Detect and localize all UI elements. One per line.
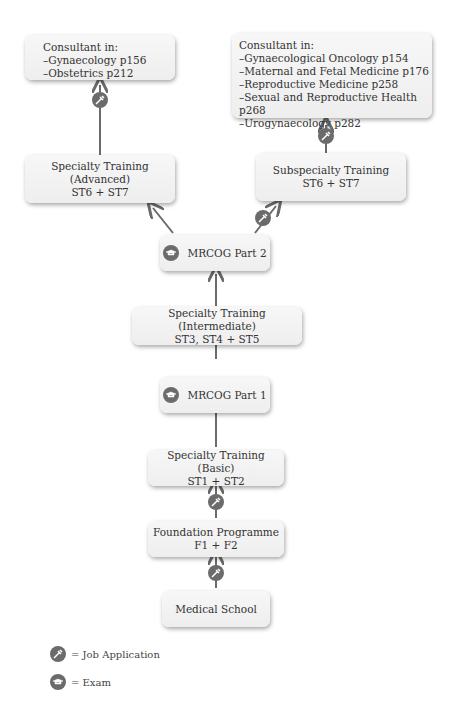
exam-icon	[163, 245, 179, 261]
mrcog-part1-node: MRCOG Part 1	[160, 377, 270, 413]
st-basic-title: Specialty Training (Basic)	[148, 449, 284, 475]
consultant-general-node: Consultant in: –Gynaecology p156 –Obstet…	[25, 35, 175, 80]
legend-job-application: = Job Application	[50, 646, 160, 662]
consultant-subspecialty-node: Consultant in: –Gynaecological Oncology …	[232, 33, 432, 118]
consultant-sub-title: Consultant in:	[239, 39, 314, 52]
consultant-sub-item: –Maternal and Fetal Medicine p176	[239, 65, 429, 78]
consultant-general-item: –Gynaecology p156	[43, 54, 146, 67]
subspecialty-training-node: Subspecialty Training ST6 + ST7	[256, 153, 406, 201]
consultant-sub-item: –Reproductive Medicine p258	[239, 78, 398, 91]
st-intermediate-years: ST3, ST4 + ST5	[175, 333, 260, 346]
exam-icon	[163, 387, 179, 403]
st-advanced-title: Specialty Training (Advanced)	[25, 160, 175, 186]
consultant-sub-item: –Urogynaecology p282	[239, 117, 361, 130]
specialty-training-basic-node: Specialty Training (Basic) ST1 + ST2	[148, 450, 284, 486]
consultant-general-title: Consultant in:	[43, 41, 118, 54]
medical-school-node: Medical School	[162, 591, 270, 627]
foundation-years: F1 + F2	[194, 539, 237, 552]
consultant-sub-item: –Gynaecological Oncology p154	[239, 52, 409, 65]
job-application-icon	[318, 128, 334, 144]
mrcog-part2-label: MRCOG Part 2	[187, 247, 266, 260]
st-basic-years: ST1 + ST2	[187, 475, 244, 488]
subspecialty-title: Subspecialty Training	[273, 164, 390, 177]
legend-exam-label: = Exam	[71, 677, 111, 688]
foundation-title: Foundation Programme	[153, 526, 279, 539]
exam-icon	[50, 674, 66, 690]
job-application-icon	[92, 92, 108, 108]
job-application-icon	[255, 210, 271, 226]
job-application-icon	[208, 494, 224, 510]
mrcog-part1-label: MRCOG Part 1	[187, 389, 266, 402]
st-intermediate-title: Specialty Training (Intermediate)	[132, 307, 302, 333]
job-application-icon	[50, 646, 66, 662]
consultant-general-item: –Obstetrics p212	[43, 67, 133, 80]
medical-school-label: Medical School	[175, 603, 257, 616]
foundation-programme-node: Foundation Programme F1 + F2	[148, 521, 284, 557]
specialty-training-advanced-node: Specialty Training (Advanced) ST6 + ST7	[25, 155, 175, 203]
specialty-training-intermediate-node: Specialty Training (Intermediate) ST3, S…	[132, 307, 302, 345]
mrcog-part2-node: MRCOG Part 2	[160, 235, 270, 271]
job-application-icon	[208, 565, 224, 581]
st-advanced-years: ST6 + ST7	[71, 186, 128, 199]
legend-exam: = Exam	[50, 674, 111, 690]
consultant-sub-item: –Sexual and Reproductive Health p268	[239, 91, 432, 117]
legend-job-application-label: = Job Application	[71, 649, 160, 660]
subspecialty-years: ST6 + ST7	[302, 177, 359, 190]
